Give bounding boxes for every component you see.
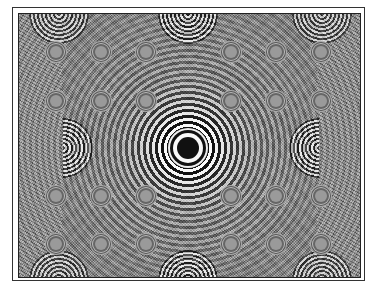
secondary-ring	[50, 46, 62, 58]
secondary-ring	[270, 238, 282, 250]
secondary-ring	[140, 46, 152, 58]
secondary-ring	[315, 95, 327, 107]
secondary-ring	[225, 95, 237, 107]
secondary-ring	[50, 238, 62, 250]
secondary-ring	[225, 190, 237, 202]
secondary-ring	[315, 190, 327, 202]
secondary-ring	[50, 95, 62, 107]
secondary-ring	[50, 190, 62, 202]
secondary-ring	[315, 238, 327, 250]
zone-plate-image	[18, 13, 361, 278]
secondary-ring	[140, 95, 152, 107]
secondary-ring	[225, 238, 237, 250]
secondary-ring	[95, 190, 107, 202]
secondary-ring	[270, 95, 282, 107]
secondary-ring	[225, 46, 237, 58]
secondary-ring	[315, 46, 327, 58]
secondary-ring	[95, 238, 107, 250]
secondary-ring	[270, 190, 282, 202]
secondary-ring	[140, 190, 152, 202]
secondary-ring	[140, 238, 152, 250]
center-dark-disc	[177, 137, 199, 159]
secondary-ring	[95, 95, 107, 107]
secondary-ring	[270, 46, 282, 58]
secondary-ring	[95, 46, 107, 58]
